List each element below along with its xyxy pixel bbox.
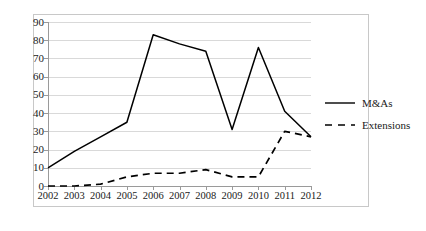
series-lines — [48, 22, 311, 186]
y-axis-tick-label: 40 — [16, 108, 44, 119]
y-axis-tick-label: 60 — [16, 71, 44, 82]
legend-item-mas: M&As — [325, 92, 425, 114]
y-axis-tick-label: 90 — [16, 17, 44, 28]
y-axis-tick-label: 50 — [16, 89, 44, 100]
y-axis-tick-label: 80 — [16, 35, 44, 46]
legend-label-extensions: Extensions — [362, 119, 410, 131]
legend-item-extensions: Extensions — [325, 114, 425, 136]
x-axis-tick-labels: 2002200320042005200620072008200920102011… — [48, 190, 311, 204]
legend-label-mas: M&As — [362, 97, 393, 109]
y-axis-tick-label: 10 — [16, 162, 44, 173]
y-axis-tick-labels: 0102030405060708090 — [8, 22, 44, 186]
series-line-m-as — [48, 35, 311, 168]
plot-area — [48, 22, 311, 186]
x-axis-tick-label: 2012 — [296, 190, 326, 202]
chart-figure: 0102030405060708090 20022003200420052006… — [0, 0, 426, 231]
legend-swatch-solid-icon — [325, 98, 355, 108]
y-axis-tick-label: 20 — [16, 144, 44, 155]
y-axis-tick-label: 30 — [16, 126, 44, 137]
legend-swatch-dashed-icon — [325, 120, 355, 130]
chart-legend: M&As Extensions — [325, 92, 425, 136]
series-line-extensions — [48, 131, 311, 186]
y-axis-tick-label: 70 — [16, 53, 44, 64]
